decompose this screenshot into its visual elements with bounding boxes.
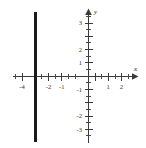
- graph-figure: -4 -2 -1 1 2 3 2 1 -1 -2 -3 x y: [0, 0, 146, 148]
- x-axis-label: x: [133, 65, 138, 73]
- x-tick-label-2: 2: [120, 83, 123, 90]
- y-tick-label-2: 2: [79, 46, 82, 53]
- y-tick-label-1: 1: [79, 59, 82, 66]
- y-tick-label-neg1: -1: [77, 86, 83, 93]
- x-tick-label-neg1: -1: [59, 83, 65, 90]
- x-tick-label-1: 1: [107, 83, 110, 90]
- y-tick-label-neg3: -3: [77, 126, 83, 133]
- y-axis-arrow-icon: [85, 9, 92, 16]
- x-axis-arrow-icon: [132, 73, 139, 80]
- y-tick-label-3: 3: [79, 19, 83, 26]
- y-axis-label: y: [93, 8, 98, 16]
- x-tick-label-neg4: -4: [19, 83, 25, 90]
- y-tick-label-neg2: -2: [77, 112, 83, 119]
- x-tick-label-neg2: -2: [46, 83, 52, 90]
- coordinate-plane-svg: -4 -2 -1 1 2 3 2 1 -1 -2 -3 x y: [0, 0, 146, 148]
